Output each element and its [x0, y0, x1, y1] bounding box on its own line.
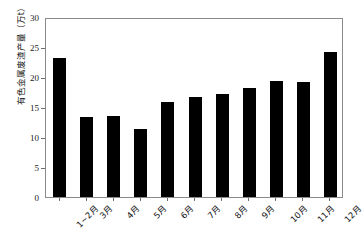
y-tick-label: 10	[0, 133, 44, 143]
bar	[53, 58, 66, 197]
x-tick-mark	[275, 198, 276, 201]
x-tick-mark	[221, 198, 222, 201]
x-tick-label: 12月	[341, 202, 364, 225]
y-tick-label-text: 0	[35, 193, 45, 203]
bar	[107, 116, 120, 197]
bar	[297, 82, 310, 197]
x-tick-label: 8月	[231, 202, 250, 221]
x-tick-mark	[86, 198, 87, 201]
bar	[270, 81, 283, 197]
y-tick-label-text: 30	[30, 13, 44, 23]
bar	[324, 52, 337, 197]
bar	[161, 102, 174, 197]
x-tick-label: 4月	[123, 202, 142, 221]
bar	[80, 117, 93, 197]
bar	[243, 88, 256, 197]
x-tick-label: 1~2月	[72, 202, 100, 230]
x-tick-mark	[194, 198, 195, 201]
x-tick-mark	[59, 198, 60, 201]
x-tick-label: 10月	[287, 202, 310, 225]
bar	[216, 94, 229, 197]
y-tick-label: 5	[0, 163, 44, 173]
y-tick-label: 15	[0, 103, 44, 113]
x-tick-label: 11月	[314, 202, 337, 225]
plot-area	[45, 18, 343, 198]
x-tick-mark	[329, 198, 330, 201]
x-tick-label: 5月	[150, 202, 169, 221]
x-tick-mark	[302, 198, 303, 201]
y-tick-label: 25	[0, 43, 44, 53]
x-tick-mark	[248, 198, 249, 201]
y-tick-label: 0	[0, 193, 44, 203]
x-tick-label: 6月	[177, 202, 196, 221]
y-tick-label: 30	[0, 13, 44, 23]
x-tick-mark	[167, 198, 168, 201]
y-tick-label: 20	[0, 73, 44, 83]
bar	[134, 129, 147, 197]
x-tick-mark	[113, 198, 114, 201]
bar	[189, 97, 202, 197]
x-tick-label: 9月	[258, 202, 277, 221]
x-tick-label: 7月	[204, 202, 223, 221]
x-tick-mark	[140, 198, 141, 201]
x-tick-label: 3月	[96, 202, 115, 221]
